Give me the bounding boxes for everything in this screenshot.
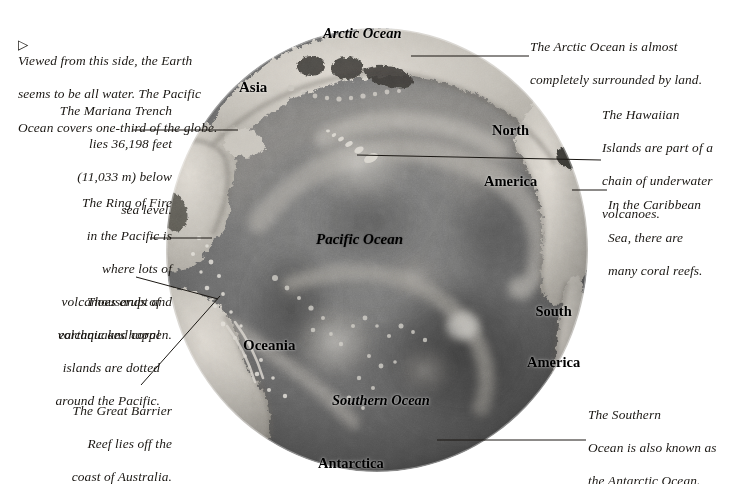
note-ringfire-line3: where lots of <box>10 261 172 278</box>
note-islands-line2: volcanic and coral <box>10 327 160 344</box>
note-gbr-line1: The Great Barrier <box>10 403 172 420</box>
note-southern-line3: the Antarctic Ocean. <box>588 473 734 484</box>
note-carib-line3: many coral reefs. <box>608 263 734 280</box>
figure-page: Arctic Ocean Asia North America Pacific … <box>0 0 734 484</box>
note-carib-line2: Sea, there are <box>608 230 734 247</box>
note-caribbean-sea: In the Caribbean Sea, there are many cor… <box>608 180 734 296</box>
triangle-bullet: ▷ <box>18 37 28 52</box>
note-southern-line1: The Southern <box>588 407 734 424</box>
note-arctic-line2: completely surrounded by land. <box>530 72 730 89</box>
note-ringfire-line2: in the Pacific is <box>10 228 172 245</box>
note-carib-line1: In the Caribbean <box>608 197 734 214</box>
note-southern-ocean: The Southern Ocean is also known as the … <box>588 390 734 484</box>
note-ringfire-line1: The Ring of Fire <box>10 195 172 212</box>
note-islands-line1: Thousands of <box>10 294 160 311</box>
note-gbr-line2: Reef lies off the <box>10 436 172 453</box>
note-mariana-line2: lies 36,198 feet <box>10 136 172 153</box>
note-southern-line2: Ocean is also known as <box>588 440 734 457</box>
note-great-barrier-reef: The Great Barrier Reef lies off the coas… <box>10 386 172 484</box>
note-hawaii-line1: The Hawaiian <box>602 107 732 124</box>
note-islands-line3: islands are dotted <box>10 360 160 377</box>
note-intro-line1: Viewed from this side, the Earth <box>18 53 192 68</box>
note-hawaii-line2: Islands are part of a <box>602 140 732 157</box>
note-gbr-line3: coast of Australia. <box>10 469 172 484</box>
note-arctic-line1: The Arctic Ocean is almost <box>530 39 730 56</box>
note-mariana-line1: The Mariana Trench <box>10 103 172 120</box>
